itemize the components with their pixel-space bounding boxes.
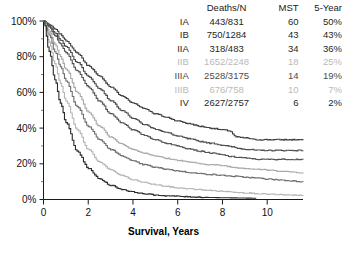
- x-tick-label: 10: [262, 207, 274, 218]
- y-tick-label: 60%: [16, 87, 36, 98]
- legend-row: IB750/12844343%: [150, 28, 342, 42]
- y-tick-label: 80%: [16, 51, 36, 62]
- legend-cell-stage: IIIA: [150, 69, 189, 83]
- x-tick-label: 4: [130, 207, 136, 218]
- legend-cell-mst: 34: [264, 42, 298, 56]
- legend-row: IIB1652/22481825%: [150, 55, 342, 69]
- legend-cell-five-year: 2%: [299, 96, 342, 110]
- legend-cell-mst: 60: [264, 15, 298, 29]
- x-tick-label: 6: [175, 207, 181, 218]
- y-tick-labels: 0%20%40%60%80%100%: [11, 16, 37, 206]
- x-tick-label: 8: [220, 207, 226, 218]
- legend-header-row: Deaths/N MST 5-Year: [150, 1, 342, 15]
- survival-curve-figure: 0%20%40%60%80%100% 0246810 Survival, Yea…: [0, 0, 342, 258]
- legend-row: IA443/8316050%: [150, 15, 342, 29]
- legend-row: IV2627/275762%: [150, 96, 342, 110]
- legend-cell-mst: 18: [264, 55, 298, 69]
- y-tick-label: 100%: [11, 16, 37, 27]
- x-tick-marks: [44, 200, 268, 205]
- legend-cell-five-year: 50%: [299, 15, 342, 29]
- legend-cell-mst: 6: [264, 96, 298, 110]
- y-tick-label: 20%: [16, 158, 36, 169]
- legend-header-mst: MST: [264, 1, 298, 15]
- legend-cell-deaths: 1652/2248: [189, 55, 264, 69]
- legend-cell-deaths: 443/831: [189, 15, 264, 29]
- legend-table: Deaths/N MST 5-Year IA443/8316050%IB750/…: [150, 1, 342, 110]
- legend-cell-deaths: 750/1284: [189, 28, 264, 42]
- y-tick-label: 0%: [22, 194, 37, 205]
- legend-cell-five-year: 7%: [299, 83, 342, 97]
- legend-header-five-year: 5-Year: [299, 1, 342, 15]
- legend-cell-mst: 14: [264, 69, 298, 83]
- legend-cell-stage: IB: [150, 28, 189, 42]
- legend-cell-deaths: 2627/2757: [189, 96, 264, 110]
- legend-cell-stage: IIA: [150, 42, 189, 56]
- legend-cell-five-year: 36%: [299, 42, 342, 56]
- legend-row: IIIB676/758107%: [150, 83, 342, 97]
- x-tick-label: 0: [41, 207, 47, 218]
- legend-cell-deaths: 676/758: [189, 83, 264, 97]
- y-tick-label: 40%: [16, 123, 36, 134]
- legend-row: IIA318/4833436%: [150, 42, 342, 56]
- legend-cell-deaths: 2528/3175: [189, 69, 264, 83]
- x-axis-title: Survival, Years: [128, 226, 199, 237]
- legend-cell-stage: IIB: [150, 55, 189, 69]
- legend-header-deaths: Deaths/N: [189, 1, 264, 15]
- legend-cell-mst: 10: [264, 83, 298, 97]
- legend-cell-stage: IV: [150, 96, 189, 110]
- legend-cell-deaths: 318/483: [189, 42, 264, 56]
- x-tick-labels: 0246810: [41, 207, 273, 218]
- legend-row: IIIA2528/31751419%: [150, 69, 342, 83]
- legend-cell-mst: 43: [264, 28, 298, 42]
- x-tick-label: 2: [85, 207, 91, 218]
- legend-cell-five-year: 43%: [299, 28, 342, 42]
- legend-cell-five-year: 25%: [299, 55, 342, 69]
- y-tick-marks: [40, 21, 44, 200]
- legend-header-stage: [150, 1, 189, 15]
- legend-cell-stage: IIIB: [150, 83, 189, 97]
- legend-cell-five-year: 19%: [299, 69, 342, 83]
- legend-cell-stage: IA: [150, 15, 189, 29]
- legend-body: IA443/8316050%IB750/12844343%IIA318/4833…: [150, 15, 342, 110]
